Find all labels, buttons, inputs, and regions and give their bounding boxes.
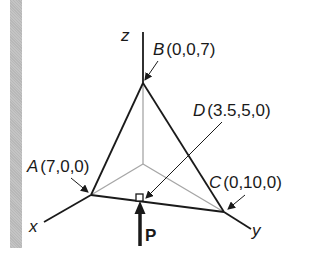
z-axis-label: z (120, 26, 130, 45)
label-c-coords: (0,10,0) (223, 173, 282, 192)
label-a-coords: (7,0,0) (40, 157, 89, 176)
label-d: D(3.5,5,0) (193, 101, 271, 120)
label-c-letter: C (209, 173, 222, 192)
leader-a (71, 178, 88, 192)
label-b: B(0,0,7) (153, 40, 215, 59)
label-a-letter: A (26, 157, 38, 176)
leader-c (228, 195, 245, 209)
x-axis-label: x (28, 217, 38, 236)
force-p-label: P (145, 226, 156, 245)
label-d-coords: (3.5,5,0) (207, 101, 270, 120)
label-b-letter: B (153, 40, 164, 59)
y-axis-label: y (251, 221, 262, 240)
edge-ab (91, 83, 143, 195)
point-d-marker (136, 194, 143, 201)
force-p-arrow (135, 201, 146, 246)
label-c: C(0,10,0) (209, 173, 282, 192)
x-axis (44, 195, 91, 222)
leader-b (145, 61, 158, 80)
tetrahedron-diagram: z x y B(0,0,7) D(3.5,5,0) A(7,0,0) C(0,1… (0, 0, 309, 257)
y-axis (224, 212, 251, 229)
label-d-letter: D (193, 101, 205, 120)
label-a: A(7,0,0) (26, 157, 89, 176)
label-b-coords: (0,0,7) (166, 40, 215, 59)
axes (44, 32, 251, 229)
edge-ac (91, 195, 224, 212)
